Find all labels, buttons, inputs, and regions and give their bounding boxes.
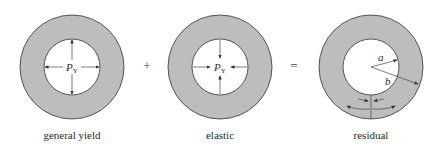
radius-a-label: a <box>378 51 384 63</box>
caption-general-yield: general yield <box>22 129 122 141</box>
radius-b-label: b <box>385 75 391 87</box>
residual-cylinder: a b <box>319 15 423 119</box>
elastic-cylinder: PY <box>168 15 272 119</box>
equals-operator: = <box>284 58 304 74</box>
general-yield-cylinder: PY <box>20 15 124 119</box>
caption-residual: residual <box>321 129 421 141</box>
caption-elastic: elastic <box>170 129 270 141</box>
plus-operator: + <box>137 58 157 74</box>
